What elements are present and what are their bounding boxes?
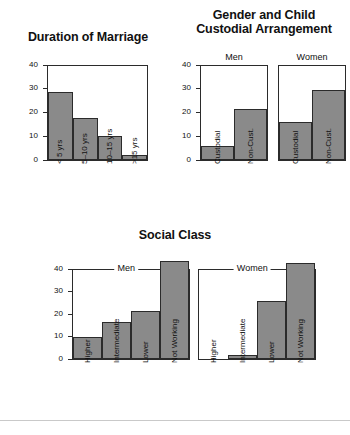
panel-caption-women: Women xyxy=(294,53,331,62)
y-tick-label: 30 xyxy=(29,84,38,92)
bar-series-custody-women xyxy=(279,65,345,160)
y-tick: 20 xyxy=(196,112,200,113)
chart-title-social-class: Social Class xyxy=(55,228,295,242)
y-tick-label: 0 xyxy=(59,355,63,363)
y-tick-label: 10 xyxy=(29,132,38,140)
y-tick-label: 20 xyxy=(29,108,38,116)
x-axis-label: Lower xyxy=(142,341,150,363)
chart-title-duration: Duration of Marriage xyxy=(4,30,172,44)
axis-line-right xyxy=(315,269,316,360)
y-tick-label: 30 xyxy=(54,287,63,295)
x-axis-label: Not Working xyxy=(171,319,179,363)
x-axis-label: Custodial xyxy=(292,131,300,164)
bar-series-custody-men xyxy=(201,65,267,160)
y-tick-label: 20 xyxy=(54,310,63,318)
x-axis-label: Non-Cust. xyxy=(325,128,333,164)
chart-duration-of-marriage: Duration of Marriage 0 10 20 30 40 < 5 y… xyxy=(0,0,175,220)
x-axis-label: Lower xyxy=(268,341,276,363)
y-tick-label: 40 xyxy=(29,61,38,69)
axis-line-bottom xyxy=(200,160,268,161)
y-tick: 10 xyxy=(43,136,47,137)
y-tick-label: 10 xyxy=(182,132,191,140)
y-tick: 30 xyxy=(43,88,47,89)
y-tick: 30 xyxy=(196,88,200,89)
chart-gender-custodial-arrangement: Gender and Child Custodial Arrangement 0… xyxy=(178,0,350,220)
y-tick-label: 10 xyxy=(54,332,63,340)
y-tick: 30 xyxy=(68,291,72,292)
x-axis-label: Custodial xyxy=(214,131,222,164)
axis-line-right xyxy=(147,65,148,161)
y-tick-label: 30 xyxy=(182,84,191,92)
y-tick-label: 0 xyxy=(34,156,38,164)
y-tick: 10 xyxy=(68,336,72,337)
y-tick: 40 xyxy=(68,269,72,270)
y-tick: 40 xyxy=(196,65,200,66)
figure-canvas: Duration of Marriage 0 10 20 30 40 < 5 y… xyxy=(0,0,350,435)
x-axis-label: Higher xyxy=(210,339,218,363)
x-axis-label: Intermediate xyxy=(239,319,247,363)
x-axis-label: Intermediate xyxy=(113,319,121,363)
y-tick: 20 xyxy=(68,314,72,315)
y-tick: 0 xyxy=(68,359,72,360)
x-axis-label: 10–15 yrs xyxy=(106,129,114,164)
x-axis-label: >15 yrs xyxy=(131,138,139,164)
chart-title-custody: Gender and Child Custodial Arrangement xyxy=(178,8,350,36)
y-tick: 0 xyxy=(43,160,47,161)
x-axis-label: < 5 yrs xyxy=(56,140,64,164)
plot-area-custody-women: Women xyxy=(278,65,346,161)
y-tick: 0 xyxy=(196,160,200,161)
axis-line-right xyxy=(189,269,190,360)
x-axis-label: Higher xyxy=(84,339,92,363)
plot-area-custody-men: 0 10 20 30 40 Men xyxy=(200,65,268,161)
x-axis-label: Non-Cust. xyxy=(247,128,255,164)
chart-social-class: Social Class 0 10 20 30 40 Men Higher In… xyxy=(0,222,350,427)
x-axis-label: 5–10 yrs xyxy=(81,133,89,164)
y-tick: 40 xyxy=(43,65,47,66)
axis-line-right xyxy=(345,65,346,161)
panel-caption-men: Men xyxy=(222,53,246,62)
y-tick: 20 xyxy=(43,112,47,113)
y-tick-label: 40 xyxy=(182,61,191,69)
y-tick-label: 0 xyxy=(187,156,191,164)
axis-line-right xyxy=(267,65,268,161)
y-tick-label: 20 xyxy=(182,108,191,116)
axis-line-bottom xyxy=(278,160,346,161)
page-edge-artifact xyxy=(0,420,350,421)
y-tick-label: 40 xyxy=(54,265,63,273)
y-tick: 10 xyxy=(196,136,200,137)
x-axis-label: Not Working xyxy=(297,319,305,363)
